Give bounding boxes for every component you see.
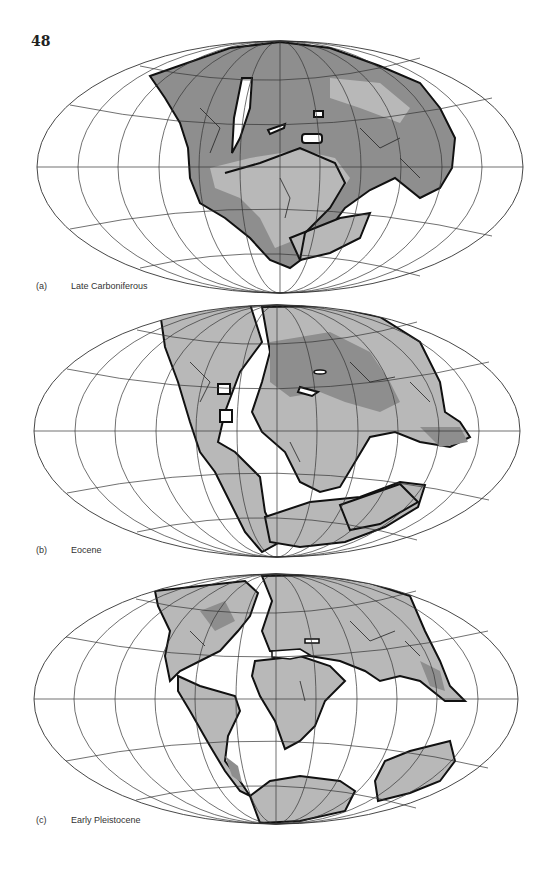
caption-a: (a)Late Carboniferous [36,281,148,291]
caption-period: Eocene [71,545,102,555]
map-eocene [0,302,550,564]
graticule [34,574,518,824]
graticule [34,305,520,557]
australia-landmass [375,741,455,801]
africa-landmass [252,656,345,749]
caption-letter: (c) [36,815,71,825]
graticule [37,41,523,293]
caption-letter: (b) [36,545,71,555]
caption-c: (c)Early Pleistocene [36,815,141,825]
caption-period: Late Carboniferous [71,281,148,291]
map-early-pleistocene [0,571,550,833]
caption-letter: (a) [36,281,71,291]
map-late-carboniferous [0,38,550,300]
caption-period: Early Pleistocene [71,815,141,825]
caption-b: (b)Eocene [36,545,102,555]
antarctica-landmass [250,776,355,823]
